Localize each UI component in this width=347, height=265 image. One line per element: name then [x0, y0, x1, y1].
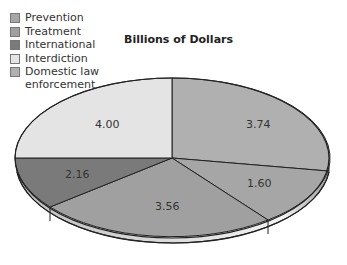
- value-label-prevention: 1.60: [247, 177, 272, 190]
- value-label-treatment: 3.56: [155, 200, 180, 213]
- slice-interdiction: [15, 78, 172, 158]
- value-label-interdiction: 4.00: [95, 118, 120, 131]
- value-label-international: 2.16: [65, 168, 90, 181]
- pie-chart: 3.74 1.60 3.56 2.16 4.00: [0, 0, 347, 265]
- value-label-domestic: 3.74: [246, 118, 271, 131]
